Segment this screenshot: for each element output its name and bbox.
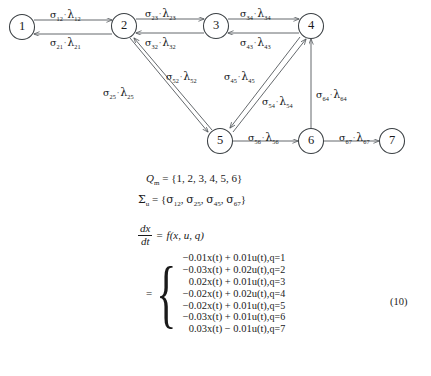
node-6-label: 6 [308, 133, 314, 147]
edge-label-4-3: σ43·λ43 [240, 36, 271, 50]
node-1-label: 1 [19, 19, 25, 33]
node-4-label: 4 [308, 18, 315, 32]
qm-lhs-sub: m [154, 179, 159, 187]
cases-expression: 0.02x(t) + 0.01u(t), [183, 276, 270, 288]
dxdt-numerator: dx [138, 223, 152, 236]
edge-label-4-5: σ45·λ45 [224, 70, 255, 84]
edge-label-5-6: σ56·λ56 [248, 131, 279, 145]
ode-equation: dx dt = f(x, u, q) [138, 223, 204, 247]
edge-5-2 [134, 38, 212, 130]
qm-set: {1, 2, 3, 4, 5, 6} [171, 172, 242, 184]
ode-eq-sign: = [156, 229, 162, 241]
node-3-label: 3 [213, 18, 219, 32]
cases-row: −0.02x(t) + 0.02u(t),q=4 [183, 287, 285, 299]
math-block: Qm = {1, 2, 3, 4, 5, 6} Σu = {σ12, σ25, … [0, 168, 431, 376]
cases-expression: −0.01x(t) + 0.01u(t), [183, 252, 270, 264]
edge-label-5-4: σ54·λ54 [262, 95, 293, 109]
sigma-u-members: {σ12, σ25, σ45, σ67} [161, 193, 246, 205]
ode-rhs: f(x, u, q) [167, 229, 204, 241]
cases-expression: 0.03x(t) − 0.01u(t), [183, 323, 270, 335]
dxdt-fraction: dx dt [138, 223, 152, 247]
cases-condition: q=1 [270, 252, 286, 264]
qm-eq: = [162, 172, 168, 184]
sigma-u-equation: Σu = {σ12, σ25, σ45, σ67} [138, 193, 246, 208]
transition-diagram: 1 2 3 4 5 6 7 σ12·λ12σ21·λ21σ23·λ23σ32·λ… [0, 0, 431, 170]
cases-row: −0.01x(t) + 0.01u(t),q=1 [183, 252, 285, 264]
equation-number: (10) [390, 296, 408, 307]
edge-label-3-4: σ34·λ34 [240, 7, 271, 21]
edge-2-5 [130, 38, 208, 132]
cases-condition: q=5 [270, 299, 286, 311]
left-brace: { [156, 262, 176, 324]
qm-equation: Qm = {1, 2, 3, 4, 5, 6} [146, 172, 242, 187]
sigma-u-lhs: Σ [138, 193, 146, 206]
edge-label-6-7: σ67·λ67 [339, 131, 370, 145]
node-7-label: 7 [389, 133, 395, 147]
qm-lhs: Q [146, 172, 154, 184]
cases-row: −0.02x(t) + 0.01u(t),q=5 [183, 299, 285, 311]
edge-5-4 [233, 39, 306, 132]
cases-row: 0.02x(t) + 0.01u(t),q=3 [183, 276, 285, 288]
edge-label-1-2: σ12·λ12 [50, 8, 81, 22]
edge-label-2-1: σ21·λ21 [50, 36, 81, 50]
edge-label-2-3: σ23·λ23 [145, 7, 176, 21]
cases-condition: q=4 [270, 287, 286, 299]
cases-expression: −0.02x(t) + 0.02u(t), [183, 287, 270, 299]
node-5-label: 5 [217, 133, 223, 147]
cases-table: −0.01x(t) + 0.01u(t),q=1−0.03x(t) + 0.02… [183, 252, 285, 334]
cases-expression: −0.03x(t) + 0.01u(t), [183, 311, 270, 323]
edge-label-3-2: σ32·λ32 [145, 36, 176, 50]
cases-condition: q=2 [270, 264, 286, 276]
sigma-u-eq: = [152, 193, 158, 205]
edge-label-6-4: σ64·λ64 [316, 88, 347, 102]
piecewise-system: = { −0.01x(t) + 0.01u(t),q=1−0.03x(t) + … [146, 252, 285, 334]
cases-expression: −0.02x(t) + 0.01u(t), [183, 299, 270, 311]
cases-condition: q=6 [270, 311, 286, 323]
node-2-label: 2 [121, 18, 127, 32]
edge-label-2-5: σ25·λ25 [103, 86, 134, 100]
cases-expression: −0.03x(t) + 0.02u(t), [183, 264, 270, 276]
sigma-u-lhs-sub: u [146, 200, 150, 208]
cases-row: 0.03x(t) − 0.01u(t),q=7 [183, 323, 285, 335]
dxdt-denominator: dt [138, 236, 152, 248]
cases-row: −0.03x(t) + 0.01u(t),q=6 [183, 311, 285, 323]
edge-label-5-2: σ52·λ52 [166, 70, 197, 84]
cases-eq-sign: = [146, 287, 152, 299]
cases-condition: q=7 [270, 323, 286, 335]
cases-condition: q=3 [270, 276, 286, 288]
cases-row: −0.03x(t) + 0.02u(t),q=2 [183, 264, 285, 276]
